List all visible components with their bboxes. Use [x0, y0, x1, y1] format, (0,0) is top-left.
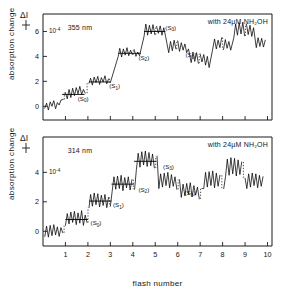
- y-tick-label: 4: [35, 168, 39, 177]
- x-tick-label: 1: [63, 250, 67, 259]
- x-tick-label: 8: [221, 250, 225, 259]
- state-label: (S3): [165, 24, 176, 33]
- y-tick-label: 2: [35, 197, 39, 206]
- signal-trace: [45, 225, 63, 238]
- x-tick-label: 2: [86, 250, 90, 259]
- y-tick-label: 0: [35, 227, 39, 236]
- condition-label: with 24µM NH₂OH: [207, 18, 268, 26]
- x-tick-label: 3: [108, 250, 112, 259]
- y-tick-label: 4: [35, 52, 39, 61]
- y-axis-title-text: absorption change: [7, 127, 16, 200]
- condition-label: with 24µM NH₂OH: [207, 141, 268, 149]
- x-tick-label: 6: [176, 250, 180, 259]
- y-tick-label: 0: [35, 102, 39, 111]
- wavelength-label: 355 nm: [68, 24, 93, 31]
- signal-trace: [89, 76, 109, 85]
- delta-i-marker: ΔI: [20, 133, 30, 153]
- signal-trace: [246, 24, 265, 48]
- delta-i-label: ΔI: [20, 10, 28, 20]
- state-label: (S0): [91, 219, 102, 228]
- signal-trace: [45, 99, 63, 110]
- delta-i-marker: ΔI: [20, 10, 30, 30]
- x-tick-label: 4: [131, 250, 135, 259]
- signal-trace: [224, 22, 245, 50]
- state-label: (S0): [184, 189, 195, 198]
- x-tick-label: 10: [264, 250, 272, 259]
- signal-trace: [202, 171, 220, 189]
- signal-trace: [157, 156, 177, 189]
- state-label: (S1): [113, 201, 124, 210]
- y-tick-label: 2: [35, 77, 39, 86]
- state-label: (S0): [186, 51, 197, 60]
- state-label: (S2): [138, 54, 149, 63]
- state-label: (S3): [163, 163, 174, 172]
- y-axis-unit: 10-4: [49, 168, 61, 176]
- x-tick-label: 9: [243, 250, 247, 259]
- signal-trace: [224, 158, 242, 189]
- y-axis-title-text-top: absorption change: [7, 7, 16, 80]
- signal-trace: [135, 151, 155, 189]
- signal-trace: [200, 38, 222, 68]
- signal-trace: [134, 24, 155, 56]
- x-axis-title-text: flash number: [133, 279, 183, 288]
- signal-trace: [65, 211, 87, 226]
- signal-trace: [245, 173, 263, 188]
- y-tick-label: 6: [35, 27, 39, 36]
- state-label: (S2): [138, 186, 149, 195]
- state-label: (S1): [109, 82, 120, 91]
- wavelength-label: 314 nm: [68, 147, 93, 154]
- absorption-change-figure: ΔI024610-4355 nmwith 24µM NH₂OH(S0)(S1)(…: [0, 0, 284, 293]
- y-axis-unit: 10-4: [49, 27, 61, 35]
- x-tick-label: 7: [198, 250, 202, 259]
- panel-top: ΔI024610-4355 nmwith 24µM NH₂OH(S0)(S1)(…: [20, 10, 272, 120]
- state-label: (S0): [78, 95, 89, 104]
- signal-trace: [89, 193, 109, 208]
- panel-bottom: ΔI02410-412345678910314 nmwith 24µM NH₂O…: [20, 133, 272, 259]
- x-tick-label: 5: [153, 250, 157, 259]
- figure-container: ΔI024610-4355 nmwith 24µM NH₂OH(S0)(S1)(…: [0, 0, 284, 293]
- delta-i-label: ΔI: [20, 133, 28, 143]
